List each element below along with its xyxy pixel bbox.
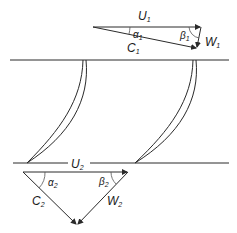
alpha1-arc [129,27,130,34]
w1-label: W1 [205,35,220,49]
alpha2-arc [39,172,45,188]
alpha2-label: α2 [48,177,58,189]
inlet-velocity-triangle: U1 α1 C1 β1 W1 [93,9,220,55]
u2-label: U2 [71,157,84,171]
c1-label: C1 [127,41,140,55]
u1-label: U1 [138,9,151,23]
beta2-arc [111,172,116,184]
velocity-triangle-diagram: U1 α1 C1 β1 W1 U2 α2 β2 C2 W2 [0,0,237,233]
blade-2 [135,60,196,163]
w1-vector [197,27,201,47]
beta1-arc [189,27,199,38]
beta1-label: β1 [179,30,190,42]
alpha1-label: α1 [133,29,143,41]
w2-label: W2 [107,194,122,208]
beta2-label: β2 [98,176,109,188]
blade-1 [27,60,87,163]
c2-label: C2 [32,194,45,208]
outlet-velocity-triangle: U2 α2 β2 C2 W2 [23,157,128,224]
